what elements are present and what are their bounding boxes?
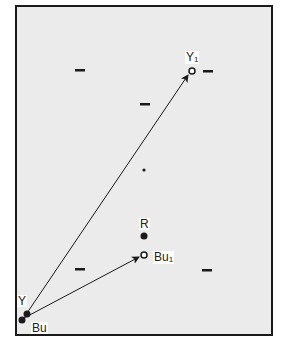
dash-marker: [203, 70, 213, 73]
dash-marker: [140, 103, 150, 106]
y1-label: Y1: [185, 51, 199, 64]
y1-label-subscript: 1: [194, 55, 198, 64]
y1-label-main: Y: [186, 50, 194, 64]
color-shift-diagram: Y1 R Bu1 Y Bu: [0, 0, 286, 351]
bu-label-text: Bu: [32, 321, 47, 335]
bu1-label-main: Bu: [154, 250, 169, 264]
y-label: Y: [17, 295, 27, 307]
bu1-point: [141, 252, 147, 258]
bu1-label-subscript: 1: [169, 255, 173, 264]
bu1-label: Bu1: [153, 251, 174, 264]
y-label-text: Y: [18, 294, 26, 308]
dash-marker: [202, 269, 212, 272]
dash-marker: [75, 268, 85, 271]
y1-point: [189, 68, 195, 74]
r-label-text: R: [140, 217, 149, 231]
r-point: [141, 233, 148, 240]
center-dot: [142, 168, 145, 171]
bu-point: [19, 317, 26, 324]
dash-marker: [75, 69, 85, 72]
y-point: [24, 311, 31, 318]
bu-label: Bu: [31, 322, 48, 334]
diagram-canvas: [0, 0, 286, 351]
r-label: R: [139, 218, 150, 230]
